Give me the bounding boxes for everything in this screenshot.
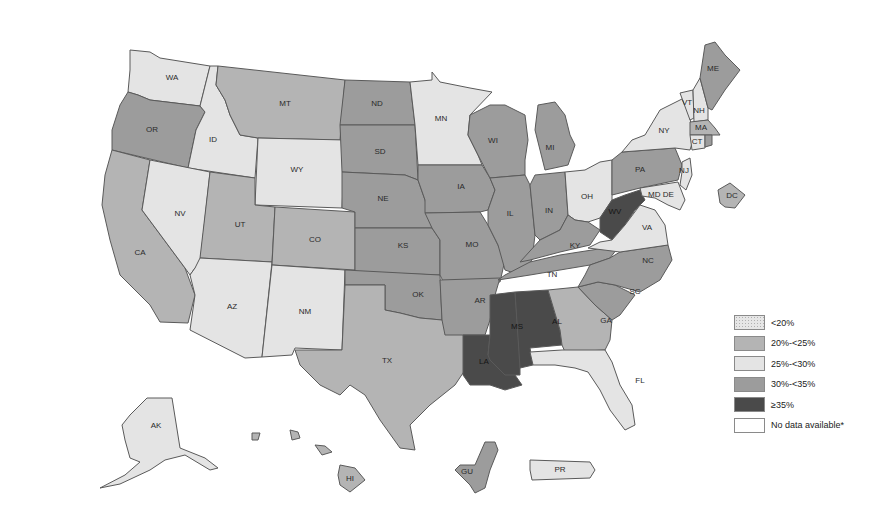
label-IA: IA [457, 182, 465, 191]
legend-swatch [734, 418, 765, 433]
label-PR: PR [554, 465, 565, 474]
label-OH: OH [581, 192, 593, 201]
label-AR: AR [474, 296, 485, 305]
label-OK: OK [412, 290, 424, 299]
label-IN: IN [545, 206, 553, 215]
legend-swatch [734, 315, 765, 330]
label-NC: NC [642, 256, 654, 265]
label-KS: KS [398, 241, 409, 250]
label-DC: DC [726, 191, 738, 200]
state-HI-small2 [315, 445, 332, 455]
label-SD: SD [374, 147, 385, 156]
legend-item-25to30: 25%-<30% [734, 355, 844, 373]
label-AK: AK [151, 421, 162, 430]
label-WV: WV [609, 207, 623, 216]
state-MS [488, 292, 520, 375]
label-WI: WI [488, 136, 498, 145]
legend-item-lt20: <20% [734, 314, 844, 332]
label-LA: LA [479, 357, 489, 366]
label-NJ: NJ [679, 166, 689, 175]
label-NH: NH [693, 106, 705, 115]
legend-label: <20% [771, 318, 794, 328]
label-GU: GU [461, 467, 473, 476]
label-TN: TN [547, 270, 558, 279]
legend-swatch [734, 377, 765, 392]
label-IL: IL [507, 209, 514, 218]
us-choropleth-map: WA OR CA ID NV MT WY UT AZ CO NM ND SD N… [0, 0, 869, 525]
state-RI [705, 135, 712, 147]
label-NM: NM [299, 307, 312, 316]
label-CO: CO [309, 235, 321, 244]
legend-item-30to35: 30%-<35% [734, 376, 844, 394]
legend-label: 25%-<30% [771, 359, 815, 369]
label-HI: HI [346, 474, 354, 483]
label-VA: VA [642, 223, 653, 232]
legend-swatch [734, 397, 765, 412]
label-MI: MI [546, 143, 555, 152]
label-MT: MT [279, 99, 291, 108]
label-NY: NY [658, 126, 670, 135]
legend-label: 30%-<35% [771, 379, 815, 389]
label-MA: MA [695, 123, 708, 132]
label-ME: ME [707, 64, 719, 73]
legend-item-nodata: No data available* [734, 417, 844, 435]
state-HI-small3 [252, 433, 260, 440]
label-KY: KY [570, 241, 581, 250]
state-ME [700, 42, 740, 110]
label-OR: OR [146, 125, 158, 134]
state-FL [530, 350, 635, 430]
label-CT: CT [692, 137, 703, 146]
label-AL: AL [552, 317, 562, 326]
label-WA: WA [166, 73, 179, 82]
label-AZ: AZ [227, 302, 237, 311]
legend-item-ge35: ≥35% [734, 396, 844, 414]
label-MS: MS [511, 322, 523, 331]
label-NV: NV [174, 209, 186, 218]
label-CA: CA [134, 248, 146, 257]
label-ND: ND [371, 99, 383, 108]
legend-label: 20%-<25% [771, 338, 815, 348]
legend-swatch [734, 356, 765, 371]
label-VT: VT [682, 98, 692, 107]
label-MN: MN [435, 114, 448, 123]
state-HI-small1 [290, 430, 300, 440]
label-MD: MD DE [648, 190, 674, 199]
label-GA: GA [600, 316, 612, 325]
label-ID: ID [209, 135, 217, 144]
map-legend: <20% 20%-<25% 25%-<30% 30%-<35% ≥35% No … [734, 314, 844, 437]
label-SC: SC [629, 287, 640, 296]
label-FL: FL [635, 376, 645, 385]
label-TX: TX [382, 356, 393, 365]
state-AK [100, 398, 218, 488]
label-PA: PA [635, 165, 646, 174]
legend-item-20to25: 20%-<25% [734, 335, 844, 353]
label-MO: MO [466, 240, 479, 249]
label-WY: WY [291, 165, 305, 174]
label-NE: NE [377, 194, 388, 203]
legend-label: No data available* [771, 420, 844, 430]
state-KS [355, 228, 440, 275]
state-MI [535, 102, 575, 170]
label-UT: UT [235, 220, 246, 229]
legend-label: ≥35% [771, 400, 794, 410]
legend-swatch [734, 336, 765, 351]
